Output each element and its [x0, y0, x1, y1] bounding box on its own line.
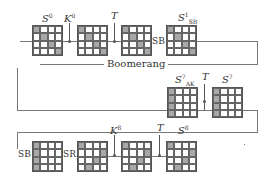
state-cell — [183, 103, 190, 110]
state-cell — [182, 164, 189, 171]
state-cell — [174, 48, 181, 55]
state-cell — [137, 149, 144, 156]
state-cell — [100, 157, 107, 164]
state-cell — [213, 88, 220, 95]
state-cell — [93, 48, 100, 55]
state-cell — [129, 48, 136, 55]
state-cell — [144, 26, 151, 33]
arrow-t1 — [114, 23, 115, 41]
row2-right — [257, 110, 258, 132]
label-t2: T — [202, 72, 209, 82]
state-cell — [93, 164, 100, 171]
state-cell — [137, 33, 144, 40]
state-cell — [78, 164, 85, 171]
state-cell — [40, 41, 47, 48]
connector-right — [257, 41, 258, 64]
state-cell — [100, 41, 107, 48]
state-cell — [144, 142, 151, 149]
state-cell — [48, 48, 55, 55]
state-cell — [122, 157, 129, 164]
state-grid-s1sb — [166, 25, 197, 56]
state-cell — [122, 33, 129, 40]
label-t1: T — [111, 11, 118, 21]
state-cell — [122, 142, 129, 149]
state-cell — [33, 149, 40, 156]
state-cell — [220, 110, 227, 117]
op-sr: SR — [62, 149, 77, 159]
state-cell — [189, 157, 196, 164]
state-cell — [174, 142, 181, 149]
connector-left — [17, 68, 18, 110]
state-cell — [228, 110, 235, 117]
state-cell — [167, 157, 174, 164]
state-cell — [55, 48, 62, 55]
state-cell — [235, 103, 242, 110]
state-cell — [85, 41, 92, 48]
state-cell — [235, 88, 242, 95]
state-cell — [175, 95, 182, 102]
stray-dot — [244, 144, 245, 145]
state-cell — [220, 103, 227, 110]
state-cell — [100, 33, 107, 40]
state-cell — [168, 110, 175, 117]
label-s8: S8 — [178, 123, 189, 136]
state-cell — [167, 149, 174, 156]
state-cell — [40, 149, 47, 156]
state-cell — [167, 26, 174, 33]
label-s7: S7 — [222, 72, 233, 85]
state-cell — [33, 157, 40, 164]
state-cell — [228, 88, 235, 95]
op-sb-1: SB — [151, 36, 166, 46]
state-cell — [167, 142, 174, 149]
state-cell — [55, 149, 62, 156]
state-cell — [78, 26, 85, 33]
state-cell — [175, 88, 182, 95]
state-grid-r3-2 — [121, 141, 152, 172]
state-cell — [174, 33, 181, 40]
state-cell — [33, 33, 40, 40]
state-cell — [129, 26, 136, 33]
state-grid-s8 — [166, 141, 197, 172]
state-cell — [190, 88, 197, 95]
state-cell — [235, 95, 242, 102]
xor-t1-icon — [113, 40, 116, 43]
state-cell — [129, 33, 136, 40]
state-cell — [174, 149, 181, 156]
state-cell — [40, 142, 47, 149]
state-cell — [48, 41, 55, 48]
state-cell — [78, 157, 85, 164]
state-cell — [174, 26, 181, 33]
state-cell — [78, 41, 85, 48]
state-cell — [40, 48, 47, 55]
xor-t3-icon — [158, 154, 161, 157]
state-cell — [144, 157, 151, 164]
state-cell — [85, 157, 92, 164]
label-t3: T — [157, 123, 164, 133]
state-cell — [190, 95, 197, 102]
state-cell — [144, 48, 151, 55]
state-cell — [144, 149, 151, 156]
arrow-t2 — [204, 84, 205, 110]
state-cell — [228, 95, 235, 102]
state-grid-s0-k — [77, 25, 108, 56]
state-cell — [189, 41, 196, 48]
state-cell — [144, 33, 151, 40]
state-cell — [137, 26, 144, 33]
state-cell — [213, 103, 220, 110]
state-cell — [167, 164, 174, 171]
arrow-k0 — [69, 23, 70, 41]
state-cell — [129, 164, 136, 171]
state-cell — [85, 142, 92, 149]
state-cell — [213, 110, 220, 117]
state-cell — [122, 26, 129, 33]
state-cell — [93, 41, 100, 48]
state-cell — [190, 103, 197, 110]
state-cell — [129, 142, 136, 149]
op-sb-2: SB — [17, 149, 32, 159]
state-cell — [129, 41, 136, 48]
state-cell — [33, 41, 40, 48]
state-cell — [220, 95, 227, 102]
state-cell — [228, 103, 235, 110]
row2-return — [17, 132, 258, 133]
state-cell — [168, 88, 175, 95]
